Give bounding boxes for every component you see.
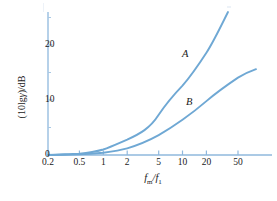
x-axis-title-sub2: 1	[158, 178, 162, 186]
curve-series-b	[48, 69, 256, 155]
figure-chart-gain-vs-frequency-ratio: 0.2 0.5 1 2 5 10 20 50 0 10 20 fm/f1 (10…	[0, 0, 277, 201]
y-axis-title-gamma: γ	[16, 93, 27, 97]
xtick-label-1: 0.5	[73, 158, 85, 168]
xtick-label-0: 0.2	[42, 158, 54, 168]
y-axis-title: (10lgγ)/dB	[16, 76, 27, 119]
curve-series-a	[48, 12, 228, 155]
xtick-label-3: 2	[125, 158, 130, 168]
curve-label-a: A	[182, 48, 188, 59]
y-axis-title-pre: (10lg	[16, 97, 27, 118]
xtick-label-5: 10	[178, 158, 188, 168]
xtick-label-2: 1	[101, 158, 106, 168]
plot-area	[0, 0, 277, 201]
xtick-label-6: 20	[202, 158, 212, 168]
xtick-label-4: 5	[156, 158, 161, 168]
x-axis-title: fm/f1	[144, 172, 162, 186]
curve-label-b: B	[186, 96, 192, 107]
y-axis-title-post: )/dB	[16, 76, 27, 94]
xtick-label-7: 50	[233, 158, 243, 168]
